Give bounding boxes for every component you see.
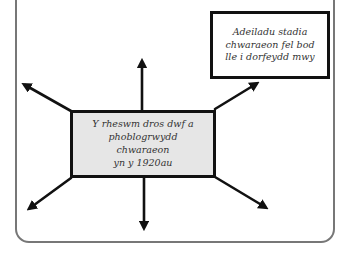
example-line-2: chwaraeon fel bod [225,39,314,52]
arrow-down-right [215,177,265,207]
center-topic-box: Y rheswm dros dwf a phoblogrwydd chwarae… [70,110,216,178]
example-line-1: Adeiladu stadia [225,26,314,39]
example-line-3: lle i dorfeydd mwy [225,51,314,64]
arrow-up-right [215,84,256,109]
example-box: Adeiladu stadia chwaraeon fel bod lle i … [210,11,330,79]
center-line-2: phoblogrwydd chwaraeon [81,131,205,157]
center-line-1: Y rheswm dros dwf a [81,118,205,131]
arrow-down-left [30,178,71,208]
center-line-3: yn y 1920au [81,157,205,170]
arrow-up-left [25,85,71,111]
